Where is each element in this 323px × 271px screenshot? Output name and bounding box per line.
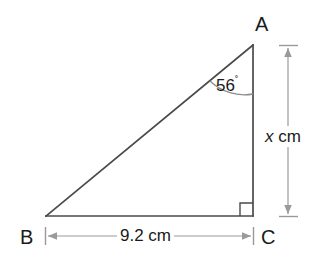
- degree-symbol: ˚: [235, 75, 238, 86]
- height-unit: cm: [278, 127, 301, 146]
- vertex-label-c: C: [261, 227, 275, 247]
- height-variable: x: [265, 127, 274, 146]
- height-length-label: x cm: [263, 126, 303, 147]
- dimension-arrow-bottom-height: [284, 205, 292, 214]
- vertex-label-b: B: [20, 227, 33, 247]
- side-hypotenuse-AB: [46, 45, 253, 216]
- angle-label-56: 56˚: [216, 76, 238, 94]
- angle-value: 56: [216, 76, 235, 95]
- dimension-arrow-left-base: [48, 232, 57, 240]
- base-length-label: 9.2 cm: [117, 227, 174, 244]
- dimension-arrow-right-base: [242, 232, 251, 240]
- dimension-arrow-top-height: [284, 48, 292, 57]
- vertex-label-a: A: [255, 14, 268, 34]
- right-angle-marker: [240, 203, 253, 216]
